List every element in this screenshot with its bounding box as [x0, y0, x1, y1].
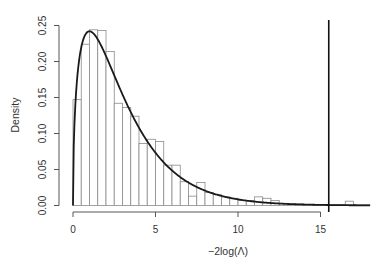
- x-axis-label: −2log(Λ): [208, 245, 248, 257]
- y-tick-label: 0.10: [37, 123, 48, 143]
- histogram-bars: [73, 30, 370, 206]
- histogram-bar: [98, 31, 106, 206]
- y-tick-label: 0.20: [37, 51, 48, 71]
- x-tick-label: 5: [153, 224, 159, 235]
- histogram-bar: [147, 139, 155, 205]
- histogram-bar: [131, 116, 139, 205]
- x-tick-label: 10: [232, 224, 244, 235]
- x-tick-label: 0: [70, 224, 76, 235]
- histogram-bar: [164, 165, 172, 205]
- histogram-bar: [205, 193, 213, 206]
- x-tick-label: 15: [315, 224, 327, 235]
- histogram-chart: 0.000.050.100.150.200.25 051015 Density …: [0, 0, 383, 270]
- histogram-bar: [81, 44, 89, 205]
- y-axis-label: Density: [9, 97, 21, 133]
- y-tick-label: 0.05: [37, 159, 48, 179]
- y-tick-label: 0.00: [37, 195, 48, 215]
- histogram-bar: [189, 196, 197, 205]
- y-tick-label: 0.15: [37, 87, 48, 107]
- histogram-bar: [123, 108, 131, 206]
- histogram-bar: [197, 182, 205, 205]
- y-axis: 0.000.050.100.150.200.25: [37, 15, 59, 215]
- y-tick-label: 0.25: [37, 15, 48, 35]
- histogram-bar: [114, 103, 122, 205]
- x-axis: 051015: [70, 212, 326, 235]
- histogram-bar: [180, 182, 188, 206]
- histogram-bar: [90, 30, 98, 206]
- histogram-bar: [139, 144, 147, 206]
- histogram-bar: [156, 141, 164, 205]
